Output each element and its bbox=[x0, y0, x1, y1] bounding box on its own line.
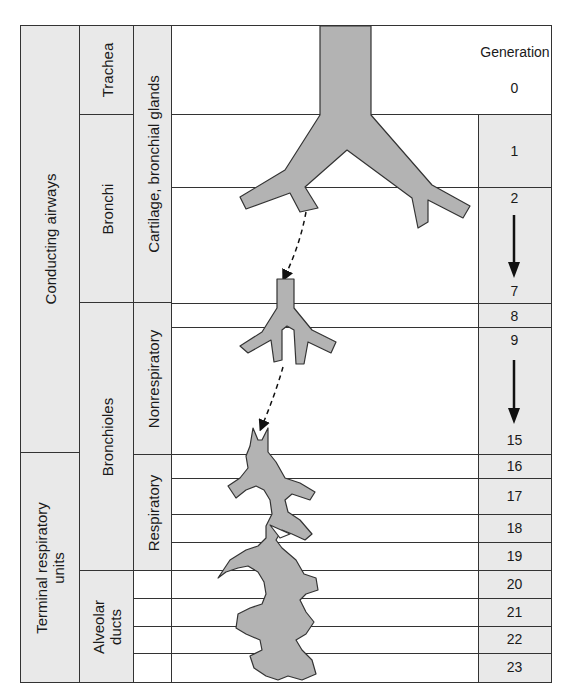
airway-drawing bbox=[0, 0, 563, 692]
generation-arrow-9-to-15 bbox=[508, 360, 520, 424]
trachea-bronchi-icon bbox=[240, 26, 470, 228]
bronchiole-icon bbox=[240, 279, 336, 364]
generation-arrow-2-to-7 bbox=[508, 215, 520, 278]
alveolar-tree-icon bbox=[218, 428, 318, 680]
dashed-arrow-2 bbox=[262, 367, 283, 426]
dashed-arrow-1 bbox=[285, 212, 306, 276]
